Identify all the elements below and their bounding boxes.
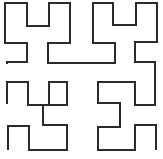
hilbert-curve-diagram [0, 0, 163, 159]
curve-svg [0, 0, 163, 159]
curve-path-main [5, 3, 157, 150]
curve-path-lower-left [7, 82, 67, 150]
